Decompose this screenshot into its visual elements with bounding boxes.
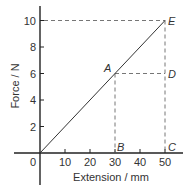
point-label-B: B — [117, 141, 124, 153]
y-tick-8: 8 — [30, 41, 36, 53]
y-tick-10: 10 — [24, 15, 36, 27]
y-tick-2: 2 — [30, 121, 36, 133]
x-tick-40: 40 — [134, 156, 146, 168]
x-tick-30: 30 — [109, 156, 121, 168]
x-tick-0: 0 — [30, 156, 36, 168]
x-tick-50: 50 — [159, 156, 171, 168]
point-label-A: A — [103, 62, 111, 74]
point-label-C: C — [168, 141, 176, 153]
force-extension-chart: 0 10 20 30 40 50 2 4 6 8 10 Extension / … — [0, 0, 190, 196]
point-label-D: D — [168, 68, 176, 80]
x-tick-10: 10 — [59, 156, 71, 168]
x-axis-title: Extension / mm — [73, 171, 149, 183]
y-tick-4: 4 — [30, 94, 36, 106]
point-label-E: E — [168, 15, 176, 27]
force-extension-line — [40, 21, 165, 154]
x-tick-20: 20 — [84, 156, 96, 168]
y-tick-6: 6 — [30, 68, 36, 80]
y-axis-title: Force / N — [9, 63, 21, 108]
